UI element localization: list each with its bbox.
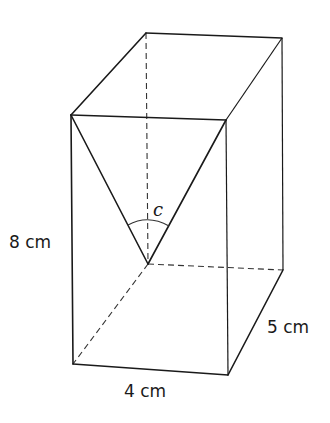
triangle-right-line bbox=[148, 120, 226, 264]
edge-top-back bbox=[146, 33, 282, 38]
hidden-edge-back-left-vertical bbox=[146, 33, 148, 264]
depth-label: 5 cm bbox=[267, 317, 309, 337]
edge-top-right bbox=[226, 38, 282, 120]
edge-top-left bbox=[71, 33, 146, 115]
hidden-edge-bottom-left bbox=[73, 264, 148, 364]
cuboid-diagram: c 8 cm 4 cm 5 cm bbox=[0, 0, 330, 423]
edge-back-right-vertical bbox=[282, 38, 283, 270]
height-label: 8 cm bbox=[9, 232, 51, 252]
width-label: 4 cm bbox=[124, 381, 166, 401]
edge-front-left-vertical bbox=[71, 115, 73, 364]
edge-bottom-front bbox=[73, 364, 228, 375]
angle-arc bbox=[128, 220, 169, 226]
edge-top-front bbox=[71, 115, 226, 120]
triangle-left-line bbox=[71, 115, 148, 264]
angle-label: c bbox=[153, 199, 163, 220]
hidden-edge-bottom-back bbox=[148, 264, 283, 270]
edge-front-right-vertical bbox=[226, 120, 228, 375]
